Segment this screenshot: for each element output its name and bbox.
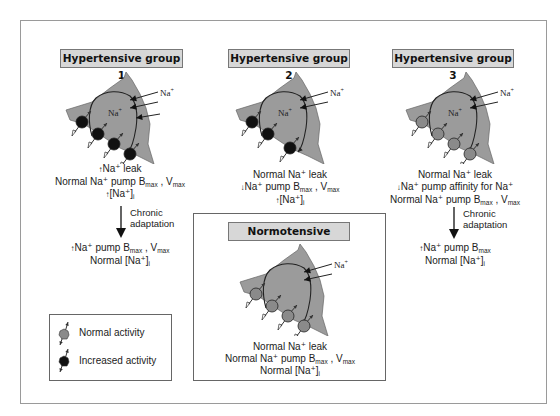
- line-text: Normal Na⁺ leak: [253, 169, 327, 180]
- normotensive-cell-diagram: Na+: [236, 244, 354, 336]
- pump-increased-icon: [262, 128, 274, 140]
- pump-increased-icon: [108, 138, 120, 150]
- legend-normal-label: Normal activity: [79, 327, 145, 338]
- pump-increased-icon: [124, 148, 136, 160]
- group-2-cell-diagram: Na+Na+: [232, 72, 350, 164]
- adaptation-label-line1: Chronic: [463, 208, 507, 219]
- line-text: Na⁺ pump B: [423, 242, 478, 253]
- subscript: max: [130, 247, 142, 254]
- pump-normal-icon: [464, 148, 476, 160]
- subscript: max: [157, 247, 169, 254]
- pump-increased-icon: [92, 128, 104, 140]
- line-text: Na⁺ pump affinity for Na⁺: [401, 181, 514, 192]
- line-text: , V: [142, 242, 157, 253]
- description-line: Normal Na⁺ leak: [220, 169, 360, 181]
- group-2-header: Hypertensive group 2: [228, 49, 350, 68]
- line-text: Na⁺ pump B: [75, 242, 130, 253]
- subscript: i: [484, 260, 485, 267]
- line-text: , V: [493, 194, 508, 205]
- description-line: Normal [Na⁺]i: [385, 255, 525, 267]
- group-3-cell-diagram: Na+Na+: [402, 72, 520, 164]
- efflux-arrow-head: [59, 368, 62, 372]
- subscript: i: [303, 199, 304, 206]
- subscript: max: [145, 181, 157, 188]
- extracellular-sodium-label: Na+: [160, 87, 175, 98]
- line-text: Normal [Na⁺]: [260, 365, 319, 376]
- group-3-header: Hypertensive group 3: [392, 49, 514, 68]
- group-2-description: Normal Na⁺ leak↓Na⁺ pump Bmax , Vmax↑[Na…: [220, 169, 360, 207]
- pump-normal-icon: [432, 128, 444, 140]
- subscript: max: [508, 199, 520, 206]
- line-text: Na⁺ pump B: [245, 181, 300, 192]
- efflux-arrow-outline: [294, 334, 298, 336]
- line-text: , V: [328, 353, 343, 364]
- group-1-adaptation-label: Chronic adaptation: [130, 207, 174, 229]
- extracellular-sodium-label: Na+: [500, 87, 515, 98]
- legend-increased-label: Increased activity: [79, 355, 156, 366]
- description-line: Normal Na⁺ pump Bmax , Vmax: [220, 353, 360, 365]
- description-line: ↑Na⁺ pump Bmax: [385, 242, 525, 255]
- description-line: Normal Na⁺ leak: [385, 169, 525, 181]
- legend-increased-pump-icon: [55, 347, 77, 375]
- line-text: , V: [312, 181, 327, 192]
- subscript: max: [300, 186, 312, 193]
- description-line: ↑Na⁺ leak: [50, 163, 190, 176]
- pump-normal-icon: [448, 138, 460, 150]
- line-text: Normal Na⁺ pump B: [225, 353, 315, 364]
- group-3-description: Normal Na⁺ leak↓Na⁺ pump affinity for Na…: [385, 169, 525, 206]
- normotensive-header: Normotensive: [228, 222, 350, 241]
- group-1-description: ↑Na⁺ leakNormal Na⁺ pump Bmax , Vmax↑[Na…: [50, 163, 190, 201]
- pump-increased-icon: [284, 142, 296, 154]
- pump-increased-icon: [59, 356, 69, 366]
- superscript-plus: +: [171, 87, 175, 93]
- pump-normal-icon: [282, 310, 294, 322]
- subscript: max: [480, 199, 492, 206]
- subscript: max: [315, 358, 327, 365]
- adaptation-label-line2: adaptation: [463, 219, 507, 230]
- superscript-plus: +: [341, 87, 345, 93]
- line-text: Na⁺ leak: [102, 163, 141, 174]
- subscript: i: [133, 193, 134, 200]
- efflux-arrow-outline: [460, 162, 464, 164]
- description-line: ↑[Na⁺]i: [50, 188, 190, 201]
- subscript: i: [319, 370, 320, 377]
- line-text: [Na⁺]: [109, 188, 133, 199]
- pump-increased-icon: [246, 116, 258, 128]
- group-1-adaptation-arrow: [116, 206, 126, 238]
- subscript: max: [327, 186, 339, 193]
- line-text: Normal [Na⁺]: [90, 255, 149, 266]
- group-3-adaptation-label: Chronic adaptation: [463, 208, 507, 230]
- subscript: max: [479, 247, 491, 254]
- legend-normal-pump-icon: [55, 320, 77, 346]
- group-3-adaptation-arrow: [449, 207, 459, 239]
- line-text: Normal Na⁺ leak: [418, 169, 492, 180]
- subscript: max: [173, 181, 185, 188]
- pump-increased-icon: [76, 116, 88, 128]
- description-line: Normal [Na⁺]i: [50, 255, 190, 267]
- description-line: ↑[Na⁺]i: [220, 194, 360, 207]
- adaptation-label-line1: Chronic: [130, 207, 174, 218]
- line-text: Normal Na⁺ pump B: [390, 194, 480, 205]
- line-text: , V: [158, 176, 173, 187]
- description-line: ↑Na⁺ pump Bmax , Vmax: [50, 242, 190, 255]
- group-1-adaptation-result: ↑Na⁺ pump Bmax , VmaxNormal [Na⁺]i: [50, 242, 190, 267]
- description-line: Normal Na⁺ leak: [220, 341, 360, 353]
- normotensive-description: Normal Na⁺ leakNormal Na⁺ pump Bmax , Vm…: [220, 341, 360, 377]
- pump-normal-icon: [266, 300, 278, 312]
- pump-normal-icon: [59, 329, 69, 339]
- extracellular-sodium-label: Na+: [330, 87, 345, 98]
- description-line: ↓Na⁺ pump affinity for Na⁺: [385, 181, 525, 194]
- line-text: [Na⁺]: [279, 194, 303, 205]
- group-3-adaptation-result: ↑Na⁺ pump BmaxNormal [Na⁺]i: [385, 242, 525, 267]
- subscript: i: [149, 260, 150, 267]
- group-1-cell-diagram: Na+Na+: [62, 72, 180, 164]
- description-line: Normal [Na⁺]i: [220, 365, 360, 377]
- superscript-plus: +: [511, 87, 515, 93]
- pump-normal-icon: [250, 288, 262, 300]
- subscript: max: [343, 358, 355, 365]
- efflux-arrow-head: [59, 341, 62, 345]
- line-text: Normal Na⁺ leak: [253, 341, 327, 352]
- description-line: Normal Na⁺ pump Bmax , Vmax: [50, 176, 190, 188]
- line-text: Normal Na⁺ pump B: [55, 176, 145, 187]
- description-line: ↓Na⁺ pump Bmax , Vmax: [220, 181, 360, 194]
